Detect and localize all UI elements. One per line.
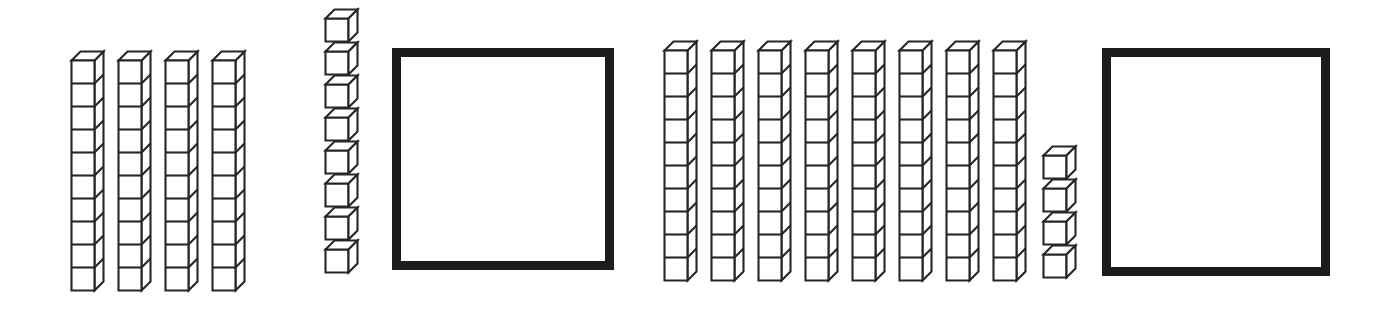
tens-rod bbox=[710, 40, 745, 282]
tens-rod bbox=[851, 40, 886, 282]
tens-rod-graphic bbox=[992, 40, 1027, 282]
right-group bbox=[0, 0, 1384, 315]
tens-rod bbox=[992, 40, 1027, 282]
worksheet-canvas bbox=[0, 0, 1384, 315]
tens-rod-graphic bbox=[851, 40, 886, 282]
unit-cube-graphic bbox=[1042, 178, 1077, 213]
tens-rod-graphic bbox=[757, 40, 792, 282]
unit-cube-graphic bbox=[1042, 244, 1077, 279]
tens-rod-graphic bbox=[710, 40, 745, 282]
answer-box[interactable] bbox=[1102, 48, 1330, 276]
tens-rod-graphic bbox=[804, 40, 839, 282]
ones-unit-cube bbox=[1042, 211, 1077, 246]
tens-rod bbox=[804, 40, 839, 282]
ones-unit-cube bbox=[1042, 145, 1077, 180]
tens-rod-graphic bbox=[663, 40, 698, 282]
tens-rod bbox=[898, 40, 933, 282]
ones-unit-cube bbox=[1042, 178, 1077, 213]
unit-cube-graphic bbox=[1042, 145, 1077, 180]
tens-rod-graphic bbox=[945, 40, 980, 282]
tens-rod bbox=[945, 40, 980, 282]
tens-rod bbox=[757, 40, 792, 282]
ones-unit-cube bbox=[1042, 244, 1077, 279]
tens-rod bbox=[663, 40, 698, 282]
tens-rod-graphic bbox=[898, 40, 933, 282]
unit-cube-graphic bbox=[1042, 211, 1077, 246]
